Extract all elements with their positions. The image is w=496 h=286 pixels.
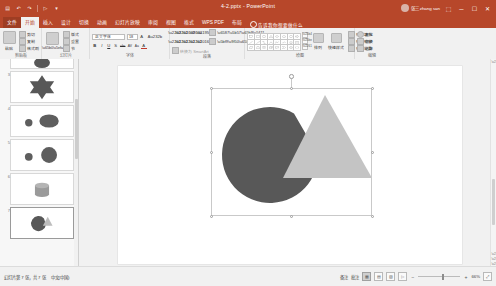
fit-slide-button[interactable]: ⤢	[483, 272, 492, 281]
handle-top-center[interactable]	[290, 87, 293, 90]
scroll-up-icon[interactable]: \u25b4	[492, 60, 496, 64]
line-spacing-icon[interactable]: \u2195	[200, 30, 206, 36]
slide-thumb-3[interactable]: 3	[10, 71, 74, 103]
change-case-icon[interactable]: Aa	[134, 43, 140, 49]
format-painter-button[interactable]: 格式刷	[19, 45, 39, 51]
arrange-button[interactable]: 排列	[311, 33, 325, 50]
shapes-gallery-scroll[interactable]: \u25b4 \u25be \u2261	[302, 32, 308, 49]
selection-bounding-box[interactable]	[211, 88, 372, 216]
rotation-handle[interactable]	[289, 74, 294, 79]
quick-styles-label: 快速样式	[328, 44, 344, 50]
thumb5-large-circle	[41, 147, 57, 163]
slide-thumb-2[interactable]: 2	[10, 59, 74, 69]
zoom-level[interactable]: 66%	[471, 274, 480, 279]
tell-me-box[interactable]: 告诉我你想要做什么	[246, 21, 304, 28]
tab-slideshow[interactable]: 幻灯片放映	[111, 17, 144, 28]
slide-thumb-3-content	[11, 72, 73, 102]
previous-slide-icon[interactable]: \u2912	[492, 257, 496, 261]
scroll-thumb[interactable]	[492, 179, 495, 225]
tab-view[interactable]: 视图	[162, 17, 180, 28]
handle-top-right[interactable]	[371, 87, 374, 90]
slide-thumb-7[interactable]: 7	[10, 207, 74, 239]
find-button[interactable]: 查找	[357, 31, 373, 37]
slide-thumb-4[interactable]: 4	[10, 105, 74, 137]
reading-view-button[interactable]: ▧	[386, 272, 395, 281]
slide-sorter-button[interactable]: ▤	[374, 272, 383, 281]
paste-label: 粘贴	[5, 45, 13, 51]
shapes-scroll-down-icon[interactable]: \u25be	[302, 38, 308, 43]
strikethrough-icon[interactable]: abc	[120, 43, 126, 49]
character-spacing-icon[interactable]: AV	[127, 43, 133, 49]
zoom-slider[interactable]	[418, 276, 460, 277]
tab-transitions[interactable]: 切换	[75, 17, 93, 28]
para-row-bottom: 转换为 SmartArt	[172, 47, 209, 54]
select-button[interactable]: 选择	[357, 45, 373, 51]
shape-bracket[interactable]	[293, 44, 301, 51]
maximize-button[interactable]: ☐	[468, 0, 481, 17]
slide-vertical-scrollbar[interactable]: \u25b4 \u25be \u2912 \u2913	[490, 59, 496, 267]
format-painter-label: 格式刷	[27, 45, 39, 51]
comments-button[interactable]: 批注	[351, 274, 359, 280]
account-area[interactable]: 张三 zhang san	[401, 4, 440, 12]
font-name-input[interactable]: 正文字体	[92, 34, 125, 40]
handle-top-left[interactable]	[210, 87, 213, 90]
bold-icon[interactable]: B	[92, 43, 98, 49]
handle-bottom-center[interactable]	[290, 215, 293, 218]
normal-view-button[interactable]: ▦	[362, 272, 371, 281]
clear-formatting-icon[interactable]: \u232b	[153, 34, 159, 40]
zoom-out-button[interactable]: −	[410, 274, 415, 280]
tab-insert[interactable]: 插入	[39, 17, 57, 28]
slide-number-6: 6	[3, 174, 10, 179]
cut-button[interactable]: 剪切	[19, 31, 39, 37]
tab-wps-pdf[interactable]: WPS PDF	[198, 17, 228, 28]
shape-effects-icon	[348, 45, 355, 52]
tab-home[interactable]: 开始	[21, 17, 39, 28]
underline-icon[interactable]: U	[106, 43, 112, 49]
handle-bottom-left[interactable]	[210, 215, 213, 218]
notes-button[interactable]: 备注	[340, 274, 348, 280]
paste-button[interactable]: 粘贴	[2, 31, 17, 51]
title-bar: ▤ ↶ ↷ ▷ ▾ 4-2.pptx - PowerPoint 张三 zhang…	[0, 0, 496, 17]
layout-button[interactable]: 版式	[63, 31, 79, 37]
handle-middle-left[interactable]	[210, 151, 213, 154]
tab-layout[interactable]: 布局	[228, 17, 246, 28]
paste-icon	[3, 31, 16, 44]
reset-button[interactable]: 重置	[63, 38, 79, 44]
shapes-gallery[interactable]	[247, 33, 299, 49]
language-indicator[interactable]: 中文(中国)	[51, 274, 70, 280]
convert-smartart-button[interactable]: 转换为 SmartArt	[172, 48, 209, 54]
replace-button[interactable]: 替换	[357, 38, 373, 44]
zoom-slider-knob[interactable]	[442, 274, 444, 280]
increase-font-size-icon[interactable]: A	[139, 34, 145, 40]
handle-middle-right[interactable]	[371, 151, 374, 154]
shadow-icon[interactable]: S	[113, 43, 119, 49]
slide-thumb-5[interactable]: 5	[10, 139, 74, 171]
handle-bottom-right[interactable]	[371, 215, 374, 218]
tab-review[interactable]: 审阅	[144, 17, 162, 28]
copy-button[interactable]: 复制	[19, 38, 39, 44]
shapes-more-icon[interactable]: \u2261	[302, 44, 308, 49]
columns-icon[interactable]: \u2016	[200, 39, 206, 45]
tab-file[interactable]: 文件	[3, 17, 21, 28]
new-slide-button[interactable]: \u65b0\u5efa	[44, 32, 61, 50]
scroll-down-icon[interactable]: \u25be	[492, 252, 496, 256]
tab-format[interactable]: 格式	[180, 17, 198, 28]
tab-design[interactable]: 设计	[57, 17, 75, 28]
font-color-icon[interactable]: A	[141, 42, 147, 49]
slide-thumb-6[interactable]: 6	[10, 173, 74, 205]
thumbnail-pane-scrollbar[interactable]	[74, 59, 78, 267]
quick-styles-button[interactable]: 快速样式	[328, 33, 344, 50]
italic-icon[interactable]: I	[99, 43, 105, 49]
slideshow-button[interactable]: ▷	[398, 272, 407, 281]
minimize-button[interactable]: ─	[455, 0, 468, 17]
zoom-in-button[interactable]: +	[463, 274, 468, 280]
font-size-input[interactable]: 18	[127, 34, 138, 40]
slide-number-7: 7	[3, 208, 10, 213]
close-button[interactable]: ✕	[481, 0, 494, 17]
ribbon-display-options-button[interactable]: ⬚	[442, 0, 455, 17]
slide-thumbnail-pane[interactable]: 2 3 4 5	[0, 59, 79, 267]
shapes-scroll-up-icon[interactable]: \u25b4	[302, 32, 308, 37]
section-button[interactable]: 节	[63, 45, 79, 51]
tab-animations[interactable]: 动画	[93, 17, 111, 28]
thumbnail-scroll-thumb[interactable]	[75, 99, 78, 159]
